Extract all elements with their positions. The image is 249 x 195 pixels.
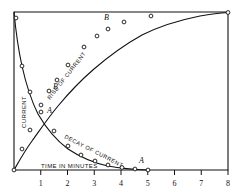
rise-curve-markers [12, 11, 230, 172]
x-tick-label: 4 [119, 179, 123, 188]
x-tick-label: 6 [173, 179, 177, 188]
y-axis-label: CURRENT [21, 96, 27, 128]
rise-of-current-curve [14, 13, 228, 171]
x-tick-label: 1 [39, 179, 43, 188]
figure-exponential-current-curves: 1 2 3 4 5 6 7 8 TIME IN MINUTES CURRENT [0, 0, 249, 195]
decay-curve-markers [14, 16, 150, 172]
decay-point-label-a-lower: A [138, 156, 144, 165]
chart-svg: 1 2 3 4 5 6 7 8 TIME IN MINUTES CURRENT [0, 0, 249, 195]
x-tick-label: 8 [226, 179, 230, 188]
rise-point-label-b-upper: B [104, 13, 109, 22]
x-axis-label: TIME IN MINUTES [41, 163, 98, 169]
decay-point-label-a-upper: A [46, 106, 52, 115]
rise-of-current-label: RISE OF CURRENT [46, 51, 87, 101]
x-tick-label: 2 [66, 179, 70, 188]
x-tick-label: 5 [146, 179, 150, 188]
x-tick-label: 3 [92, 179, 96, 188]
x-tick-label: 7 [199, 179, 203, 188]
plot-frame [14, 12, 228, 170]
rise-point-label-b-lower: B [53, 82, 58, 91]
